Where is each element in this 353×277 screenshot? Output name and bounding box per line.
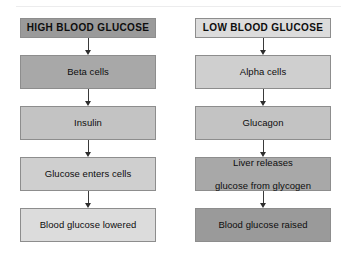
top-divider-rule (16, 6, 341, 7)
node-glucagon: Glucagon (195, 106, 331, 140)
node-low-blood-glucose-header: LOW BLOOD GLUCOSE (195, 18, 331, 38)
node-label-line-1: Liver releases (212, 157, 314, 169)
flowchart-diagram: HIGH BLOOD GLUCOSE Beta cells Insulin Gl… (0, 0, 353, 277)
node-blood-glucose-raised: Blood glucose raised (195, 208, 331, 242)
node-label: Blood glucose lowered (37, 219, 140, 231)
node-beta-cells: Beta cells (20, 55, 156, 89)
node-label-line-2: glucose from glycogen (212, 180, 314, 192)
arrow-glucose-enters-cells-to-blood-glucose-lowered (85, 191, 92, 208)
node-label: HIGH BLOOD GLUCOSE (24, 22, 152, 34)
node-label: Beta cells (64, 66, 112, 78)
node-label: Glucagon (239, 117, 286, 129)
arrow-insulin-to-glucose-enters-cells (85, 140, 92, 157)
node-label: Insulin (71, 117, 105, 129)
node-label: Blood glucose raised (215, 219, 310, 231)
node-label: Alpha cells (237, 66, 290, 78)
node-high-blood-glucose-header: HIGH BLOOD GLUCOSE (20, 18, 156, 38)
arrow-beta-cells-to-insulin (85, 89, 92, 106)
node-label: LOW BLOOD GLUCOSE (200, 22, 326, 34)
node-glucose-enters-cells: Glucose enters cells (20, 157, 156, 191)
arrow-glucagon-to-liver-releases-glucose (260, 140, 267, 157)
node-label: Glucose enters cells (42, 168, 135, 180)
node-liver-releases-glucose-from-glycogen: Liver releases glucose from glycogen (195, 157, 331, 191)
arrow-high-to-beta-cells (85, 38, 92, 55)
arrow-liver-releases-glucose-to-blood-glucose-raised (260, 191, 267, 208)
node-alpha-cells: Alpha cells (195, 55, 331, 89)
arrow-low-to-alpha-cells (260, 38, 267, 55)
node-blood-glucose-lowered: Blood glucose lowered (20, 208, 156, 242)
node-label-multiline: Liver releases glucose from glycogen (209, 157, 317, 192)
arrow-alpha-cells-to-glucagon (260, 89, 267, 106)
node-insulin: Insulin (20, 106, 156, 140)
